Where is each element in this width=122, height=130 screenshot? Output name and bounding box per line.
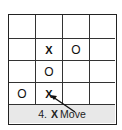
move-number: 4.: [38, 108, 47, 120]
cell-r1-c1: [9, 15, 36, 39]
cell-r4-c4: [90, 83, 115, 105]
cell-r3-c4: [90, 61, 115, 83]
cell-r2-c4: [90, 39, 115, 61]
move-mark: X: [51, 108, 58, 120]
cell-r1-c2: [36, 15, 63, 39]
cell-r3-c2: O: [36, 61, 63, 83]
cell-r2-c2: X: [36, 39, 63, 61]
game-board: X O O O X 4. X Move: [8, 14, 117, 125]
cell-r1-c4: [90, 15, 115, 39]
cell-r1-c3: [63, 15, 90, 39]
cell-r3-c1: [9, 61, 36, 83]
cell-r2-c3: O: [63, 39, 90, 61]
cell-r2-c1: [9, 39, 36, 61]
cell-r4-c3: [63, 83, 90, 105]
board-grid: X O O O X: [9, 15, 115, 105]
cell-r4-c1: O: [9, 83, 36, 105]
cell-r4-c2: X: [36, 83, 63, 105]
cell-r3-c3: [63, 61, 90, 83]
move-label: Move: [60, 108, 86, 120]
move-caption: 4. X Move: [9, 105, 115, 123]
